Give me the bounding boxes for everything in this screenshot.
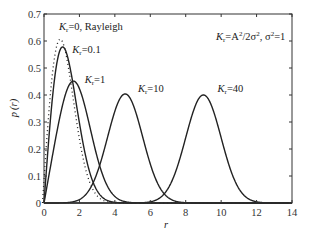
rician-pdf-chart: 0246810121400.10.20.30.40.50.60.7 Kr=0, … [0,0,310,236]
x-tick-label: 2 [77,207,82,218]
y-tick-label: 0.5 [28,63,41,74]
x-tick-label: 4 [112,207,118,218]
plot-frame [44,14,292,203]
y-axis-label: p(r) [8,98,20,118]
x-tick-label: 6 [148,207,153,218]
curve-annotation: Kr=0, Rayleigh [58,21,123,34]
y-tick-label: 0.2 [28,144,41,155]
curve-annotation: Kr=0.1 [71,44,100,57]
curve-annotation: Kr=40 [217,83,244,96]
formula-annotation: Kr=A2/2σ2, σ2=1 [215,30,285,44]
x-tick-label: 8 [183,207,188,218]
curve-k-0_1 [44,47,292,203]
y-tick-label: 0.1 [28,171,41,182]
x-tick-label: 12 [251,207,262,218]
curve-k-1 [44,81,292,203]
curve-annotation: Kr=10 [137,83,164,96]
curves-group [43,39,293,203]
x-tick-label: 0 [41,207,46,218]
y-tick-label: 0.6 [28,36,41,47]
curve-k-40 [44,95,292,203]
x-tick-label: 14 [287,207,298,218]
ticks-group: 0246810121400.10.20.30.40.50.60.7 [28,9,298,218]
y-tick-label: 0 [36,198,41,209]
y-tick-label: 0.7 [28,9,41,20]
x-axis-label: r [164,219,169,230]
y-tick-label: 0.4 [28,90,42,101]
curve-k-10 [44,94,292,203]
curve-annotation: Kr=1 [84,74,106,87]
x-tick-label: 10 [216,207,227,218]
y-tick-label: 0.3 [28,117,41,128]
